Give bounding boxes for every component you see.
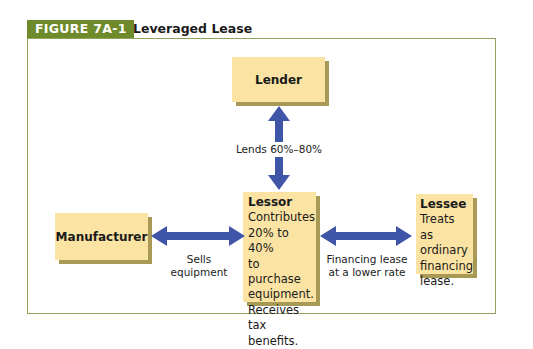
lessee-node: Lessee Treats as ordinary financing leas… bbox=[416, 194, 473, 274]
lessee-line: ordinary bbox=[420, 243, 469, 258]
lessor-node-title: Lessor bbox=[248, 195, 311, 210]
lessor-line: equipment. bbox=[248, 287, 311, 302]
lessor-node: Lessor Contributes 20% to 40% to purchas… bbox=[243, 192, 316, 302]
lessee-line: lease. bbox=[420, 274, 469, 289]
arrow-up-to-lender-icon bbox=[268, 106, 290, 142]
edge-label-line: equipment bbox=[163, 266, 235, 279]
lessor-line: 20% to 40% bbox=[248, 226, 311, 257]
manufacturer-node-title: Manufacturer bbox=[56, 230, 148, 244]
edge-label-line: Financing lease bbox=[318, 253, 416, 266]
lessee-line: Treats as bbox=[420, 212, 469, 243]
double-arrow-lessor-lessee-icon bbox=[320, 226, 412, 246]
lessor-line: to purchase bbox=[248, 257, 311, 288]
edge-label-lends: Lends 60%–80% bbox=[226, 143, 332, 156]
edge-label-financing-lease: Financing lease at a lower rate bbox=[318, 253, 416, 279]
edge-label-line: at a lower rate bbox=[318, 266, 416, 279]
lessor-line: Contributes bbox=[248, 210, 311, 225]
lender-node-title: Lender bbox=[255, 73, 302, 87]
arrow-down-to-lessor-icon bbox=[268, 157, 290, 190]
double-arrow-manufacturer-lessor-icon bbox=[151, 226, 245, 246]
edge-label-sells-equipment: Sells equipment bbox=[163, 253, 235, 279]
figure-number-tag: FIGURE 7A-1 bbox=[27, 20, 134, 38]
lender-node: Lender bbox=[232, 57, 325, 102]
lessee-node-title: Lessee bbox=[420, 197, 469, 212]
edge-label-line: Sells bbox=[163, 253, 235, 266]
manufacturer-node: Manufacturer bbox=[55, 213, 148, 260]
lessor-line: benefits. bbox=[248, 334, 311, 349]
lessee-line: financing bbox=[420, 259, 469, 274]
lessor-line: Receives tax bbox=[248, 303, 311, 334]
figure-title: Leveraged Lease bbox=[133, 20, 252, 38]
